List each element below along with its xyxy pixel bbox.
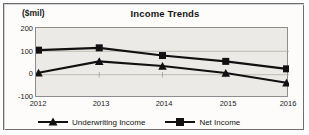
chart-legend: Underwriting Income Net Income (38, 115, 278, 129)
legend-item-underwriting-income: Underwriting Income (38, 117, 145, 127)
y-tick-200: 200 (7, 24, 33, 33)
legend-item-net-income: Net Income (165, 117, 240, 127)
x-tick-2013: 2013 (81, 99, 121, 108)
series-underwriting-income (36, 57, 289, 86)
legend-label-net-income: Net Income (199, 118, 240, 127)
x-tick-2012: 2012 (18, 99, 58, 108)
legend-label-underwriting-income: Underwriting Income (72, 118, 145, 127)
chart-figure: ($mil) Income Trends 200 100 0 -100 (0, 0, 309, 135)
x-tick-2014: 2014 (144, 99, 184, 108)
data-point (96, 44, 103, 51)
data-point (283, 65, 289, 72)
x-tick-2015: 2015 (208, 99, 248, 108)
data-point (159, 52, 166, 59)
data-point (36, 47, 42, 54)
y-tick-0: 0 (7, 69, 33, 78)
x-tick-2016: 2016 (268, 99, 308, 108)
data-point (222, 58, 229, 65)
plot-area (35, 27, 288, 97)
triangle-marker-icon (38, 117, 68, 127)
chart-title: Income Trends (90, 8, 240, 19)
plot-svg (36, 28, 289, 98)
square-marker-icon (165, 117, 195, 127)
y-axis-ticks: 200 100 0 -100 (3, 0, 33, 135)
y-tick-100: 100 (7, 47, 33, 56)
